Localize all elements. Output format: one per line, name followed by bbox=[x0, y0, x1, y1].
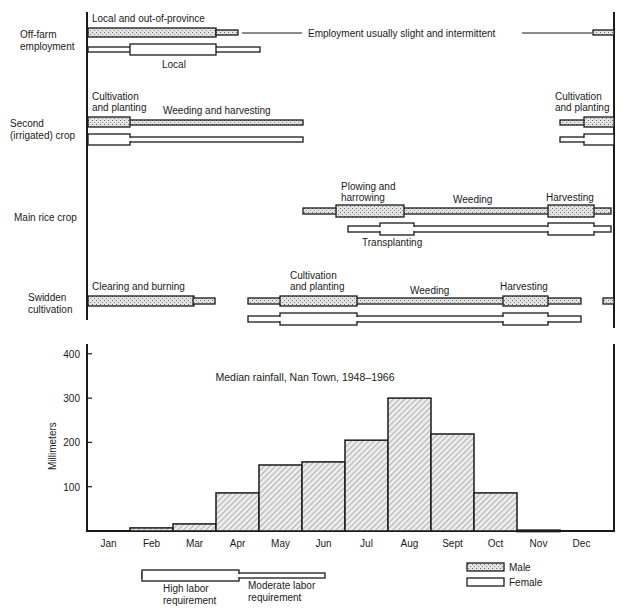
legend-male-swatch bbox=[467, 563, 504, 571]
row-label-swidden-2: cultivation bbox=[28, 304, 72, 315]
bar-sept bbox=[431, 434, 474, 531]
bar-female-high-cult bbox=[280, 313, 357, 325]
bar-female-gap-1 bbox=[279, 317, 282, 321]
bar-jun bbox=[302, 462, 345, 531]
label-harvesting: Harvesting bbox=[500, 281, 548, 292]
bar-female-gap-1 bbox=[379, 227, 382, 231]
label-transplanting: Transplanting bbox=[362, 237, 422, 248]
label-and-planting: and planting bbox=[92, 102, 147, 113]
label-local: Local bbox=[162, 59, 186, 70]
label-slight-employment: Employment usually slight and intermitte… bbox=[308, 28, 496, 39]
bar-female-high-harvest bbox=[548, 223, 594, 235]
label-local-out-of-province: Local and out-of-province bbox=[92, 13, 205, 24]
bar-apr bbox=[216, 493, 259, 531]
legend-moderate-label-2: requirement bbox=[248, 592, 302, 603]
bar-jul bbox=[345, 440, 388, 531]
y-axis-label: Millimeters bbox=[47, 422, 58, 470]
legend: High labor requirement Moderate labor re… bbox=[142, 562, 543, 606]
row-label-second-1: Second bbox=[10, 118, 44, 129]
bar-male-high-harvest bbox=[503, 296, 548, 306]
bar-female-high-harvest bbox=[503, 313, 548, 325]
row-label-offfarm-2: employment bbox=[20, 41, 75, 52]
label-weeding-harvesting: Weeding and harvesting bbox=[163, 105, 271, 116]
label-weeding: Weeding bbox=[453, 194, 492, 205]
x-tick-aug: Aug bbox=[401, 538, 419, 549]
row-swidden: Swidden cultivation Clearing and burning… bbox=[28, 270, 614, 325]
y-tick-label: 200 bbox=[63, 437, 80, 448]
label-cultivation: Cultivation bbox=[92, 91, 139, 102]
x-tick-may: May bbox=[271, 538, 290, 549]
label-harrowing: harrowing bbox=[341, 192, 385, 203]
bar-feb bbox=[130, 528, 173, 531]
bar-female-moderate-dec bbox=[560, 137, 586, 142]
chart-title: Median rainfall, Nan Town, 1948–1966 bbox=[215, 371, 394, 383]
x-tick-oct: Oct bbox=[488, 538, 504, 549]
row-label-second-2: (irrigated) crop bbox=[10, 130, 75, 141]
legend-high-bar bbox=[142, 570, 239, 581]
bar-male-moderate bbox=[216, 30, 238, 35]
x-tick-feb: Feb bbox=[143, 538, 161, 549]
x-tick-mar: Mar bbox=[186, 538, 204, 549]
bar-male-moderate bbox=[128, 120, 303, 125]
legend-male-label: Male bbox=[509, 562, 531, 573]
bar-may bbox=[259, 465, 302, 531]
bar-male-high bbox=[88, 28, 216, 37]
labor-calendar-figure: Off-farm employment Local and out-of-pro… bbox=[0, 0, 621, 608]
y-tick-label: 400 bbox=[63, 349, 80, 360]
bar-mar bbox=[173, 524, 216, 531]
legend-moderate-label-1: Moderate labor bbox=[248, 580, 316, 591]
rainfall-bars bbox=[130, 398, 560, 532]
bar-female-high-dec bbox=[584, 134, 614, 145]
row-main-rice: Main rice crop Plowing and harrowing Wee… bbox=[14, 181, 611, 248]
x-tick-jan: Jan bbox=[100, 538, 116, 549]
bar-female-gap-4 bbox=[546, 317, 549, 321]
bar-male-high-harvest bbox=[548, 205, 594, 217]
x-tick-jun: Jun bbox=[315, 538, 331, 549]
bar-male-high-plowing bbox=[336, 205, 404, 217]
bar-aug bbox=[388, 398, 431, 531]
bar-male-moderate-dec bbox=[593, 30, 614, 35]
legend-join bbox=[237, 574, 240, 577]
bar-male-high bbox=[88, 117, 130, 127]
bar-female-gap-4 bbox=[592, 227, 595, 231]
row-label-main-rice: Main rice crop bbox=[14, 212, 77, 223]
label-and-planting: and planting bbox=[290, 281, 345, 292]
x-tick-apr: Apr bbox=[230, 538, 246, 549]
x-ticks: JanFebMarAprMayJunJulAugSeptOctNovDec bbox=[100, 538, 590, 549]
bar-female-moderate bbox=[128, 137, 303, 142]
y-tick-label: 100 bbox=[63, 482, 80, 493]
bar-female-high bbox=[88, 134, 130, 145]
bar-male-moderate-dec bbox=[603, 298, 614, 304]
bar-male-high-dec bbox=[584, 117, 614, 127]
bar-female-gap-3 bbox=[502, 317, 505, 321]
bar-female-inner bbox=[131, 48, 215, 51]
legend-female-swatch bbox=[467, 578, 504, 586]
legend-female-label: Female bbox=[509, 577, 543, 588]
label-and-planting-dec: and planting bbox=[555, 102, 610, 113]
y-tick-label: 300 bbox=[63, 393, 80, 404]
bar-male-moderate-clearing bbox=[193, 298, 215, 304]
row-label-swidden-1: Swidden bbox=[28, 292, 66, 303]
row-second-crop: Second (irrigated) crop Cultivation and … bbox=[10, 91, 614, 145]
label-plowing: Plowing and bbox=[341, 181, 395, 192]
row-offfarm: Off-farm employment Local and out-of-pro… bbox=[20, 13, 614, 70]
bar-female-gap-2 bbox=[412, 227, 415, 231]
bar-male-moderate-dec bbox=[560, 120, 586, 125]
label-harvesting: Harvesting bbox=[546, 192, 594, 203]
label-weeding: Weeding bbox=[410, 285, 449, 296]
bar-oct bbox=[474, 493, 517, 531]
x-tick-dec: Dec bbox=[573, 538, 591, 549]
bar-male-high-cult bbox=[280, 296, 357, 306]
bar-male-high-clearing bbox=[88, 296, 194, 306]
bar-female-gap-3 bbox=[547, 227, 550, 231]
x-tick-nov: Nov bbox=[530, 538, 548, 549]
label-cultivation-dec: Cultivation bbox=[555, 91, 602, 102]
label-cultivation: Cultivation bbox=[290, 270, 337, 281]
legend-high-label-1: High labor bbox=[163, 583, 209, 594]
row-label-offfarm-1: Off-farm bbox=[20, 29, 56, 40]
bar-nov bbox=[517, 530, 560, 532]
x-tick-sept: Sept bbox=[442, 538, 463, 549]
legend-high-label-2: requirement bbox=[163, 595, 217, 606]
bar-female-join bbox=[128, 138, 131, 141]
x-tick-jul: Jul bbox=[360, 538, 373, 549]
